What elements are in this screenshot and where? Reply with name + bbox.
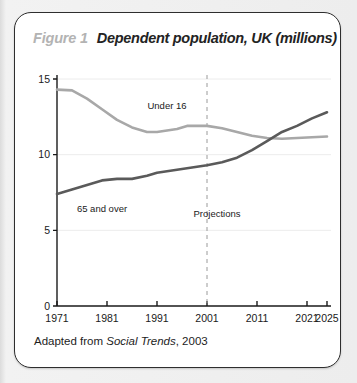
svg-text:5: 5 bbox=[44, 224, 50, 236]
y-axis-tick-labels: 051015 bbox=[38, 73, 50, 312]
svg-text:10: 10 bbox=[38, 148, 50, 160]
svg-text:2025: 2025 bbox=[315, 312, 339, 322]
page-background: Figure 1Dependent population, UK (millio… bbox=[0, 0, 357, 383]
chart-series-lines bbox=[57, 90, 327, 194]
chart-plot-area: 051015 1971198119912001201120212025 Unde… bbox=[15, 57, 341, 322]
figure-source-caption: Adapted from Social Trends, 2003 bbox=[34, 335, 208, 347]
svg-text:1981: 1981 bbox=[95, 312, 119, 322]
svg-text:2011: 2011 bbox=[246, 312, 269, 322]
svg-text:1971: 1971 bbox=[45, 312, 69, 322]
source-publication: Social Trends bbox=[106, 335, 175, 347]
chart-axes bbox=[57, 75, 331, 306]
source-year: , 2003 bbox=[176, 335, 208, 347]
svg-text:15: 15 bbox=[38, 73, 50, 85]
chart-tick-marks bbox=[53, 79, 327, 306]
svg-text:65 and over: 65 and over bbox=[77, 203, 127, 214]
page-title: Dependent population, UK (millions) bbox=[97, 30, 337, 46]
chart-annotations: Under 1665 and overProjections bbox=[77, 100, 241, 218]
figure-title-row: Figure 1Dependent population, UK (millio… bbox=[33, 29, 337, 47]
svg-text:1991: 1991 bbox=[145, 312, 169, 322]
figure-box: Figure 1Dependent population, UK (millio… bbox=[14, 12, 341, 368]
svg-text:0: 0 bbox=[44, 300, 50, 312]
source-prefix: Adapted from bbox=[34, 335, 106, 347]
svg-text:Projections: Projections bbox=[194, 208, 241, 219]
line-chart-svg: 051015 1971198119912001201120212025 Unde… bbox=[15, 57, 341, 322]
svg-text:2001: 2001 bbox=[195, 312, 219, 322]
x-axis-tick-labels: 1971198119912001201120212025 bbox=[45, 312, 339, 322]
svg-text:Under 16: Under 16 bbox=[147, 100, 186, 111]
figure-number-label: Figure 1 bbox=[33, 30, 88, 46]
